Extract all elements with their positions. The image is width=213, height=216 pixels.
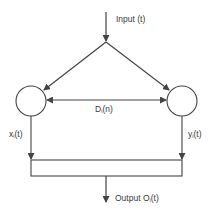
link-label-suffix: (n) — [102, 104, 112, 114]
input-label: Input (t) — [116, 14, 145, 24]
output-label: Output Oi(t) — [115, 193, 159, 203]
split-arrow-left — [44, 42, 106, 90]
output-label-suffix: (t) — [151, 193, 159, 203]
combiner-rectangle — [31, 160, 182, 176]
link-label: Di(n) — [95, 104, 113, 114]
left-output-label: xi(t) — [9, 129, 23, 139]
left-node-circle — [16, 86, 46, 116]
right-node-circle — [167, 86, 197, 116]
output-label-prefix: Output O — [115, 193, 150, 203]
right-output-label: yi(t) — [188, 129, 202, 139]
left-output-label-suffix: (t) — [14, 129, 22, 139]
input-label-text: Input (t) — [116, 14, 145, 24]
split-arrow-right — [106, 42, 169, 90]
right-output-label-suffix: (t) — [193, 129, 201, 139]
